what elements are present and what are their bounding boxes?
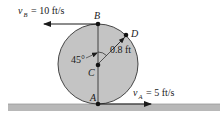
point-c-dot: [96, 63, 101, 68]
svg-text:v: v: [133, 87, 138, 98]
label-c: C: [88, 67, 95, 78]
diagram-canvas: B D C A 45° 0.8 ft v B = 10 ft/s v A = 5…: [0, 0, 220, 116]
label-b: B: [94, 10, 100, 21]
svg-text:A: A: [138, 93, 143, 100]
svg-text:= 10 ft/s: = 10 ft/s: [31, 5, 65, 16]
svg-text:= 5 ft/s: = 5 ft/s: [146, 87, 175, 98]
velocity-a-label: v A = 5 ft/s: [133, 87, 175, 100]
point-b-dot: [96, 22, 101, 27]
ground-surface: [8, 104, 220, 111]
point-a-dot: [96, 102, 101, 107]
angle-label: 45°: [71, 54, 85, 65]
point-d-dot: [124, 33, 129, 38]
label-d: D: [130, 28, 139, 39]
velocity-b-label: v B = 10 ft/s: [18, 5, 65, 18]
radius-label: 0.8 ft: [110, 44, 131, 55]
svg-text:v: v: [18, 5, 23, 16]
svg-text:B: B: [24, 11, 28, 18]
label-a: A: [89, 92, 97, 103]
